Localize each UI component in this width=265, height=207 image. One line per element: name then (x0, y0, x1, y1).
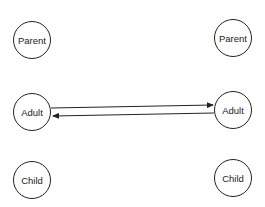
right-child-node: Child (214, 159, 252, 197)
right-adult-node: Adult (214, 91, 252, 129)
left-adult-node: Adult (13, 93, 51, 131)
node-label: Parent (219, 33, 247, 44)
node-label: Parent (18, 35, 46, 46)
node-label: Adult (21, 107, 43, 118)
arrow-left-to-right (51, 105, 213, 108)
node-label: Adult (222, 105, 244, 116)
node-label: Child (222, 173, 244, 184)
node-label: Child (21, 175, 43, 186)
left-child-node: Child (13, 161, 51, 199)
left-parent-node: Parent (13, 21, 51, 59)
right-parent-node: Parent (214, 19, 252, 57)
arrow-right-to-left (53, 113, 214, 116)
